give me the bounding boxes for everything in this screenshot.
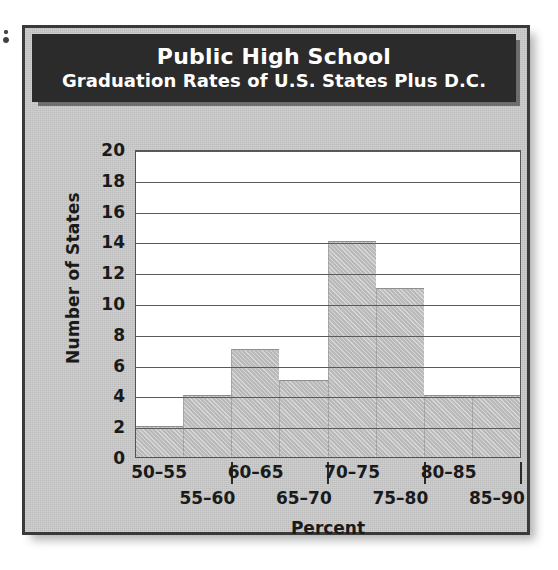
chart-title-line-1: Public High School <box>157 45 391 69</box>
bar <box>376 288 424 457</box>
y-tick-label: 8 <box>83 326 125 343</box>
bar <box>472 395 520 457</box>
y-tick-label: 14 <box>83 234 125 251</box>
x-axis-tick-labels-row-1: 50–5560–6570–7580–85 <box>135 464 521 488</box>
y-tick-label: 2 <box>83 419 125 436</box>
bar <box>424 395 472 457</box>
bar <box>328 241 376 457</box>
bar <box>136 426 183 457</box>
x-tick-label: 65–70 <box>276 490 332 507</box>
chart-title-banner: Public High School Graduation Rates of U… <box>32 34 516 102</box>
bar <box>183 395 231 457</box>
y-tick-label: 16 <box>83 203 125 220</box>
x-tick-label: 50–55 <box>131 464 187 481</box>
y-axis-tick-labels: 20181614121086420 <box>83 150 125 458</box>
y-tick-label: 12 <box>83 265 125 282</box>
y-tick-label: 10 <box>83 296 125 313</box>
scan-artifact-mark <box>3 29 12 45</box>
x-axis-title: Percent <box>135 518 521 538</box>
x-tick-label: 85–90 <box>469 490 525 507</box>
x-tick-label: 75–80 <box>372 490 428 507</box>
chart-body: Number of States 20181614121086420 50–55… <box>25 108 527 532</box>
bar <box>279 380 327 457</box>
plot-area <box>135 150 521 458</box>
chart-figure-frame: Public High School Graduation Rates of U… <box>22 25 530 535</box>
y-tick-label: 20 <box>83 142 125 159</box>
y-tick-label: 0 <box>83 450 125 467</box>
y-tick-label: 4 <box>83 388 125 405</box>
x-tick-label: 55–60 <box>179 490 235 507</box>
y-tick-label: 6 <box>83 357 125 374</box>
x-tick-label: 80–85 <box>421 464 477 481</box>
y-tick-label: 18 <box>83 172 125 189</box>
bar <box>231 349 279 457</box>
bar-series <box>136 151 520 457</box>
x-axis-tick-labels-row-2: 55–6065–7075–8085–90 <box>135 490 521 514</box>
chart-title-line-2: Graduation Rates of U.S. States Plus D.C… <box>62 71 486 92</box>
x-tick-label: 70–75 <box>324 464 380 481</box>
y-axis-title: Number of States <box>63 188 83 368</box>
x-tick-label: 60–65 <box>228 464 284 481</box>
